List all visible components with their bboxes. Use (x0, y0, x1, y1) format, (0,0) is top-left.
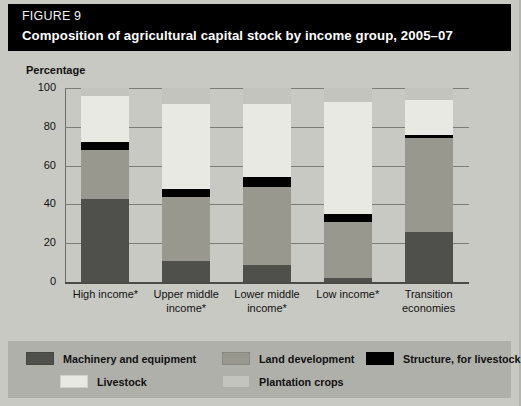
legend-label: Structure, for livestock (403, 353, 521, 365)
chart-area: Percentage 020406080100 High income*Uppe… (8, 55, 511, 340)
bar-segment[interactable] (243, 177, 291, 187)
bar-segment[interactable] (162, 261, 210, 282)
bar-segment[interactable] (81, 142, 129, 150)
x-tick-label: Transition economies (381, 287, 477, 315)
legend-item[interactable]: Structure, for livestock (366, 352, 521, 365)
bar-segment[interactable] (81, 96, 129, 143)
legend-item[interactable]: Livestock (60, 375, 147, 388)
y-tick-label: 100 (26, 81, 56, 93)
bar-segment[interactable] (81, 88, 129, 96)
stacked-bar[interactable] (81, 88, 129, 282)
bar-segment[interactable] (405, 232, 453, 282)
bar-segment[interactable] (243, 265, 291, 282)
legend-swatch (222, 375, 250, 388)
y-tick-label: 0 (26, 275, 56, 287)
bar-segment[interactable] (162, 189, 210, 197)
bar-column[interactable] (405, 88, 453, 282)
y-tick-label: 60 (26, 159, 56, 171)
legend-item[interactable]: Land development (222, 352, 354, 365)
x-axis-line (65, 282, 469, 284)
bar-segment[interactable] (81, 150, 129, 199)
figure-title: Composition of agricultural capital stoc… (22, 26, 497, 45)
legend-label: Machinery and equipment (63, 353, 196, 365)
bar-segment[interactable] (81, 199, 129, 282)
legend-swatch (366, 352, 394, 365)
bar-segment[interactable] (243, 187, 291, 265)
stacked-bar[interactable] (162, 88, 210, 282)
y-axis-label: Percentage (26, 64, 85, 76)
bar-segment[interactable] (405, 138, 453, 231)
plot-canvas (65, 88, 469, 282)
y-tick-label: 80 (26, 120, 56, 132)
stacked-bar[interactable] (243, 88, 291, 282)
bar-column[interactable] (81, 88, 129, 282)
y-tick-label: 40 (26, 197, 56, 209)
bar-segment[interactable] (405, 88, 453, 100)
bar-segment[interactable] (243, 104, 291, 178)
bar-column[interactable] (324, 88, 372, 282)
legend-swatch (26, 352, 54, 365)
stacked-bar[interactable] (324, 88, 372, 282)
figure-header: FIGURE 9 Composition of agricultural cap… (8, 4, 511, 51)
bar-segment[interactable] (405, 100, 453, 135)
chart-legend: Machinery and equipmentLand developmentS… (8, 341, 511, 398)
legend-label: Plantation crops (259, 376, 344, 388)
bar-segment[interactable] (162, 104, 210, 189)
bar-segment[interactable] (324, 102, 372, 215)
bar-segment[interactable] (243, 88, 291, 104)
bar-segment[interactable] (324, 214, 372, 222)
legend-label: Livestock (97, 376, 147, 388)
legend-label: Land development (259, 353, 354, 365)
legend-item[interactable]: Machinery and equipment (26, 352, 196, 365)
x-axis-tick-labels: High income*Upper middle income*Lower mi… (65, 287, 469, 333)
bar-segment[interactable] (162, 197, 210, 261)
bar-column[interactable] (162, 88, 210, 282)
figure-number: FIGURE 9 (22, 8, 497, 25)
stacked-bar[interactable] (405, 88, 453, 282)
bar-segment[interactable] (324, 88, 372, 102)
bar-column[interactable] (243, 88, 291, 282)
legend-swatch (222, 352, 250, 365)
legend-swatch (60, 375, 88, 388)
y-axis-tick-labels: 020406080100 (26, 88, 56, 282)
y-tick-label: 20 (26, 236, 56, 248)
legend-item[interactable]: Plantation crops (222, 375, 344, 388)
bar-segment[interactable] (324, 222, 372, 278)
bar-segment[interactable] (162, 88, 210, 104)
